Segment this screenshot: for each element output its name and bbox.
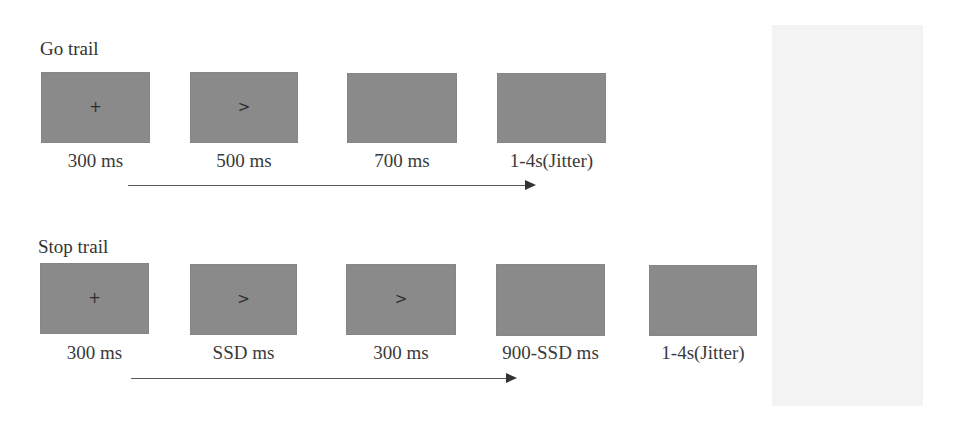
stop-screen-arrow: >	[190, 264, 297, 335]
go-label-3: 700 ms	[347, 150, 457, 172]
stop-timeline-arrow	[131, 378, 507, 379]
stop-screen-fixation: +	[40, 263, 149, 334]
right-arrow-stimulus-icon: >	[237, 292, 250, 307]
go-screen-fixation: +	[41, 72, 150, 143]
stop-screen-blank-1	[496, 264, 605, 336]
stop-label-1: 300 ms	[40, 342, 149, 364]
fixation-cross-icon: +	[88, 291, 101, 306]
go-screen-arrow: >	[190, 72, 298, 143]
right-arrow-stimulus-icon: >	[395, 292, 408, 307]
go-screen-blank-1	[347, 73, 457, 143]
go-label-4: 1-4s(Jitter)	[480, 150, 623, 172]
go-label-2: 500 ms	[190, 150, 298, 172]
side-panel	[772, 25, 923, 406]
stop-label-4: 900-SSD ms	[480, 342, 621, 364]
arrowhead-icon	[506, 373, 517, 383]
stop-label-5: 1-4s(Jitter)	[632, 342, 774, 364]
stop-trial-title: Stop trail	[38, 236, 108, 258]
fixation-cross-icon: +	[89, 100, 102, 115]
arrowhead-icon	[525, 180, 536, 190]
right-arrow-stimulus-icon: >	[238, 100, 251, 115]
stop-label-3: 300 ms	[346, 342, 456, 364]
go-screen-blank-2	[497, 73, 606, 143]
stop-label-2: SSD ms	[190, 342, 297, 364]
go-timeline-arrow	[128, 185, 526, 186]
stop-screen-arrow-2: >	[346, 264, 456, 335]
go-trial-title: Go trail	[40, 38, 99, 60]
go-label-1: 300 ms	[41, 150, 150, 172]
stop-screen-blank-2	[649, 265, 757, 336]
